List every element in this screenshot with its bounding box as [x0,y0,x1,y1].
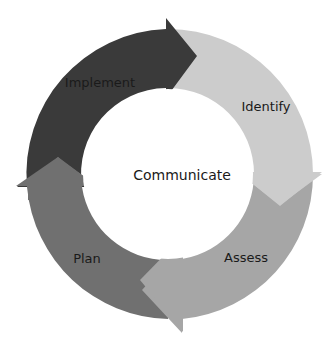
center-label: Communicate [133,167,231,183]
stage-label-plan: Plan [73,251,101,266]
stage-label-implement: Implement [65,75,135,90]
stage-label-identify: Identify [241,99,290,114]
stage-label-assess: Assess [224,250,268,265]
